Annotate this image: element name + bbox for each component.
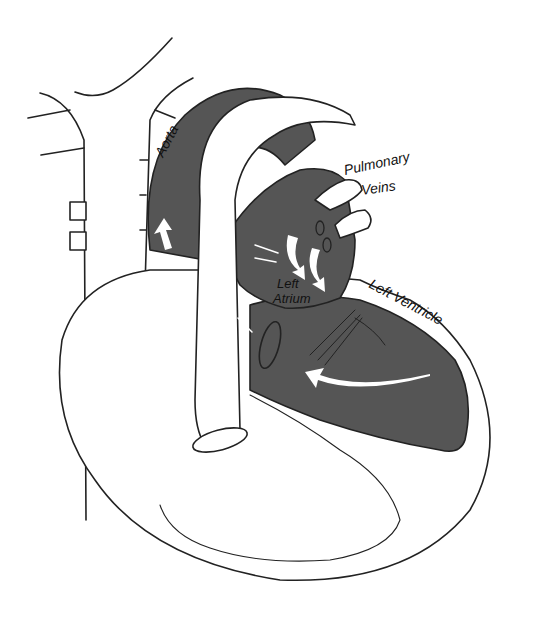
- heart-diagram: Aorta Pulmonary Veins Left Atrium Left V…: [0, 0, 544, 617]
- label-left-atrium-2: Atrium: [272, 291, 311, 306]
- label-pulmonary-veins-1: Pulmonary: [342, 148, 412, 178]
- label-left-atrium-1: Left: [277, 276, 300, 291]
- label-pulmonary-veins-2: Veins: [360, 177, 396, 198]
